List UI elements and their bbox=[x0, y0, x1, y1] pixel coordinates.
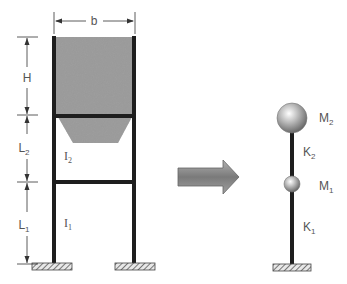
lumped-mass-model bbox=[273, 103, 311, 271]
model-support-icon bbox=[273, 264, 311, 271]
mass-m1-label: M1 bbox=[319, 179, 334, 195]
transform-arrow-icon bbox=[178, 160, 239, 194]
lower-story-label: L1 bbox=[18, 218, 30, 234]
upper-beam bbox=[52, 114, 136, 118]
upper-inertia-label: I2 bbox=[64, 149, 72, 165]
silo-hopper bbox=[58, 117, 132, 143]
silo-frame bbox=[32, 36, 155, 270]
stiffness-k2-label: K2 bbox=[303, 145, 316, 161]
width-label: b bbox=[91, 14, 98, 28]
mass-m1-icon bbox=[284, 176, 300, 192]
upper-story-label: L2 bbox=[18, 141, 30, 157]
height-label: H bbox=[23, 71, 32, 85]
stiffness-k1-label: K1 bbox=[303, 220, 316, 236]
left-column bbox=[52, 36, 56, 264]
lower-inertia-label: I1 bbox=[64, 216, 72, 232]
right-column bbox=[132, 36, 136, 264]
mass-m2-label: M2 bbox=[319, 111, 334, 127]
lower-beam bbox=[52, 180, 136, 184]
model-stick bbox=[290, 128, 294, 264]
right-support-icon bbox=[115, 263, 155, 270]
diagram-canvas: b H L2 L1 I2 I1 M2 K2 M1 K1 bbox=[0, 0, 347, 284]
silo-bin bbox=[55, 37, 133, 115]
mass-m2-icon bbox=[277, 103, 307, 133]
